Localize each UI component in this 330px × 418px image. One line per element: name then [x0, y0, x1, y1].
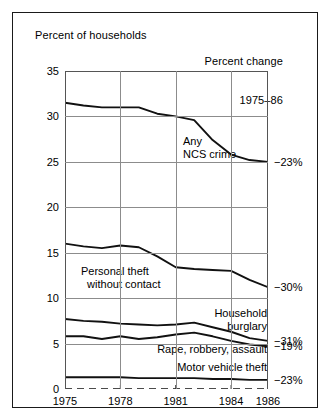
percent-change-label: −19%	[274, 341, 302, 352]
x-tick-label: 1978	[97, 396, 143, 407]
y-tick-label: 25	[19, 157, 59, 168]
gridline-horizontal	[65, 253, 268, 254]
x-tick-label: 1981	[153, 396, 199, 407]
gridline-vertical	[120, 71, 121, 389]
right-title-line1: Percent change	[161, 55, 283, 68]
plot-area	[65, 71, 268, 389]
gridline-horizontal	[65, 389, 268, 390]
plot-frame	[65, 71, 268, 389]
gridline-horizontal	[65, 344, 268, 345]
gridline-horizontal	[65, 298, 268, 299]
x-tick-label: 1986	[245, 396, 291, 407]
y-tick-label: 0	[19, 384, 59, 395]
y-tick-label: 15	[19, 248, 59, 259]
percent-change-label: −30%	[274, 282, 302, 293]
gridline-vertical	[231, 71, 232, 389]
percent-change-label: −23%	[274, 157, 302, 168]
gridline-horizontal	[65, 162, 268, 163]
y-tick-label: 20	[19, 202, 59, 213]
chart-figure: Percent of households Percent change 197…	[12, 12, 318, 408]
chart-left-axis-title: Percent of households	[35, 29, 147, 42]
y-tick-label: 30	[19, 111, 59, 122]
gridline-horizontal	[65, 116, 268, 117]
y-tick-label: 5	[19, 339, 59, 350]
y-tick-label: 10	[19, 293, 59, 304]
gridline-horizontal	[65, 207, 268, 208]
y-tick-label: 35	[19, 66, 59, 77]
percent-change-label: −23%	[274, 375, 302, 386]
gridline-vertical	[176, 71, 177, 389]
x-tick-label: 1975	[42, 396, 88, 407]
